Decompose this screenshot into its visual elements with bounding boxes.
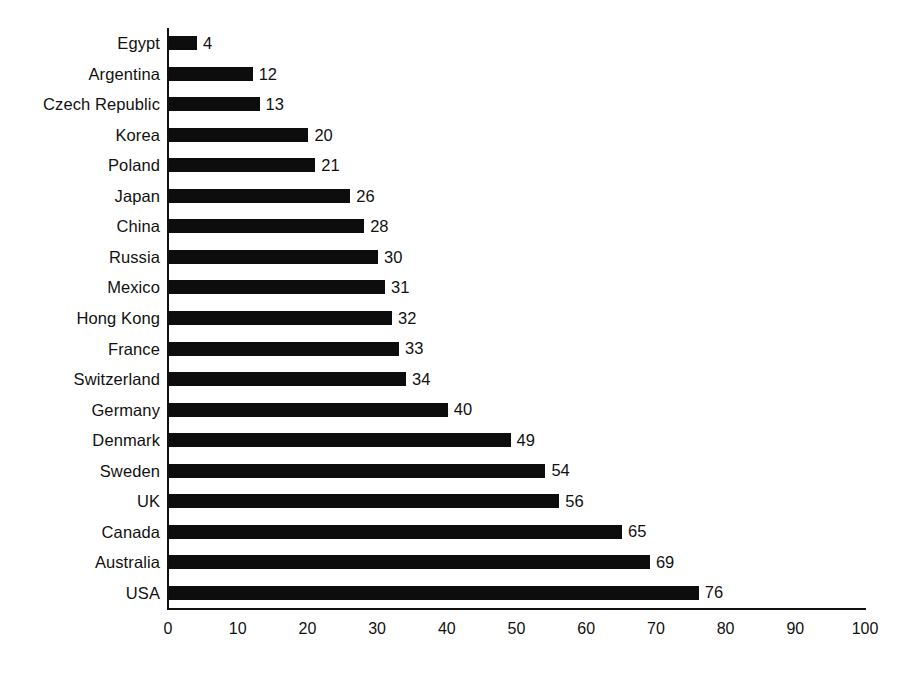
category-label: Czech Republic bbox=[43, 95, 160, 114]
bar bbox=[169, 219, 364, 233]
bar-chart: Egypt4Argentina12Czech Republic13Korea20… bbox=[0, 0, 921, 674]
bar-with-value: 54 bbox=[169, 464, 570, 478]
bar-row: Hong Kong32 bbox=[0, 303, 921, 334]
category-label: Egypt bbox=[117, 34, 160, 53]
bar-with-value: 40 bbox=[169, 403, 472, 417]
category-label: Denmark bbox=[92, 431, 160, 450]
bar-value-label: 33 bbox=[405, 340, 423, 357]
category-label: Australia bbox=[95, 553, 160, 572]
bar bbox=[169, 97, 260, 111]
bar bbox=[169, 525, 622, 539]
bar-value-label: 56 bbox=[565, 493, 583, 510]
bar-row: Denmark49 bbox=[0, 425, 921, 456]
x-axis-tick-label: 90 bbox=[786, 620, 804, 638]
bar-with-value: 4 bbox=[169, 36, 212, 50]
category-label: Sweden bbox=[100, 461, 160, 480]
x-axis-tick-label: 70 bbox=[647, 620, 665, 638]
bar-row: Canada65 bbox=[0, 516, 921, 547]
bar bbox=[169, 67, 253, 81]
category-label: Korea bbox=[115, 125, 160, 144]
x-axis-tick-label: 100 bbox=[852, 620, 879, 638]
x-axis-line bbox=[167, 608, 866, 610]
bar bbox=[169, 189, 350, 203]
bar-row: Switzerland34 bbox=[0, 364, 921, 395]
category-label: Argentina bbox=[88, 64, 160, 83]
bar-with-value: 12 bbox=[169, 67, 277, 81]
bar-value-label: 40 bbox=[454, 401, 472, 418]
x-axis-tick-label: 30 bbox=[368, 620, 386, 638]
bar-row: Russia30 bbox=[0, 242, 921, 273]
bar bbox=[169, 250, 378, 264]
bar bbox=[169, 464, 545, 478]
x-axis-tick-label: 60 bbox=[577, 620, 595, 638]
bar-value-label: 4 bbox=[203, 35, 212, 52]
bar-row: Czech Republic13 bbox=[0, 89, 921, 120]
x-axis-tick-label: 0 bbox=[164, 620, 173, 638]
category-label: Canada bbox=[102, 522, 160, 541]
bar-row: Sweden54 bbox=[0, 455, 921, 486]
bar-with-value: 33 bbox=[169, 342, 423, 356]
bar bbox=[169, 586, 699, 600]
bar bbox=[169, 311, 392, 325]
x-axis-tick-label: 10 bbox=[229, 620, 247, 638]
bar-with-value: 26 bbox=[169, 189, 375, 203]
bar-row: Poland21 bbox=[0, 150, 921, 181]
bar-with-value: 31 bbox=[169, 280, 409, 294]
bar-with-value: 28 bbox=[169, 219, 389, 233]
bar-value-label: 30 bbox=[384, 249, 402, 266]
bar-row: Japan26 bbox=[0, 181, 921, 212]
bar bbox=[169, 128, 308, 142]
bar-value-label: 54 bbox=[551, 462, 569, 479]
bar bbox=[169, 36, 197, 50]
bar-row: Germany40 bbox=[0, 394, 921, 425]
bar-row: Egypt4 bbox=[0, 28, 921, 59]
bar-value-label: 21 bbox=[321, 157, 339, 174]
bar-with-value: 20 bbox=[169, 128, 333, 142]
bar-row: Korea20 bbox=[0, 120, 921, 151]
bar-row: France33 bbox=[0, 333, 921, 364]
plot-area: Egypt4Argentina12Czech Republic13Korea20… bbox=[0, 0, 921, 674]
bar-value-label: 69 bbox=[656, 554, 674, 571]
category-label: USA bbox=[126, 583, 160, 602]
bar-row: Argentina12 bbox=[0, 59, 921, 90]
bar bbox=[169, 555, 650, 569]
bar-with-value: 30 bbox=[169, 250, 402, 264]
bar-value-label: 20 bbox=[314, 127, 332, 144]
bar-value-label: 34 bbox=[412, 371, 430, 388]
bar-row: Mexico31 bbox=[0, 272, 921, 303]
x-axis-tick-label: 80 bbox=[717, 620, 735, 638]
bar-row: UK56 bbox=[0, 486, 921, 517]
category-label: Hong Kong bbox=[77, 308, 160, 327]
bar-value-label: 76 bbox=[705, 584, 723, 601]
bar bbox=[169, 433, 511, 447]
bar-row: China28 bbox=[0, 211, 921, 242]
bar bbox=[169, 372, 406, 386]
bar-with-value: 65 bbox=[169, 525, 646, 539]
category-label: UK bbox=[137, 492, 160, 511]
bar-value-label: 31 bbox=[391, 279, 409, 296]
category-label: Mexico bbox=[107, 278, 160, 297]
bar bbox=[169, 158, 315, 172]
category-label: Poland bbox=[108, 156, 160, 175]
category-label: China bbox=[116, 217, 160, 236]
bar-with-value: 21 bbox=[169, 158, 340, 172]
bar-with-value: 49 bbox=[169, 433, 535, 447]
bar bbox=[169, 403, 448, 417]
bar-with-value: 56 bbox=[169, 494, 584, 508]
bar-with-value: 34 bbox=[169, 372, 430, 386]
category-label: Germany bbox=[91, 400, 160, 419]
bar-value-label: 32 bbox=[398, 310, 416, 327]
category-label: France bbox=[108, 339, 160, 358]
bar-value-label: 28 bbox=[370, 218, 388, 235]
x-axis-tick-label: 50 bbox=[508, 620, 526, 638]
bar-row: Australia69 bbox=[0, 547, 921, 578]
x-axis-tick-label: 20 bbox=[298, 620, 316, 638]
bar-with-value: 13 bbox=[169, 97, 284, 111]
bar-with-value: 69 bbox=[169, 555, 674, 569]
bar-value-label: 12 bbox=[259, 66, 277, 83]
x-axis-tick-label: 40 bbox=[438, 620, 456, 638]
bar bbox=[169, 494, 559, 508]
category-label: Switzerland bbox=[74, 370, 160, 389]
category-label: Russia bbox=[109, 247, 160, 266]
bar bbox=[169, 280, 385, 294]
